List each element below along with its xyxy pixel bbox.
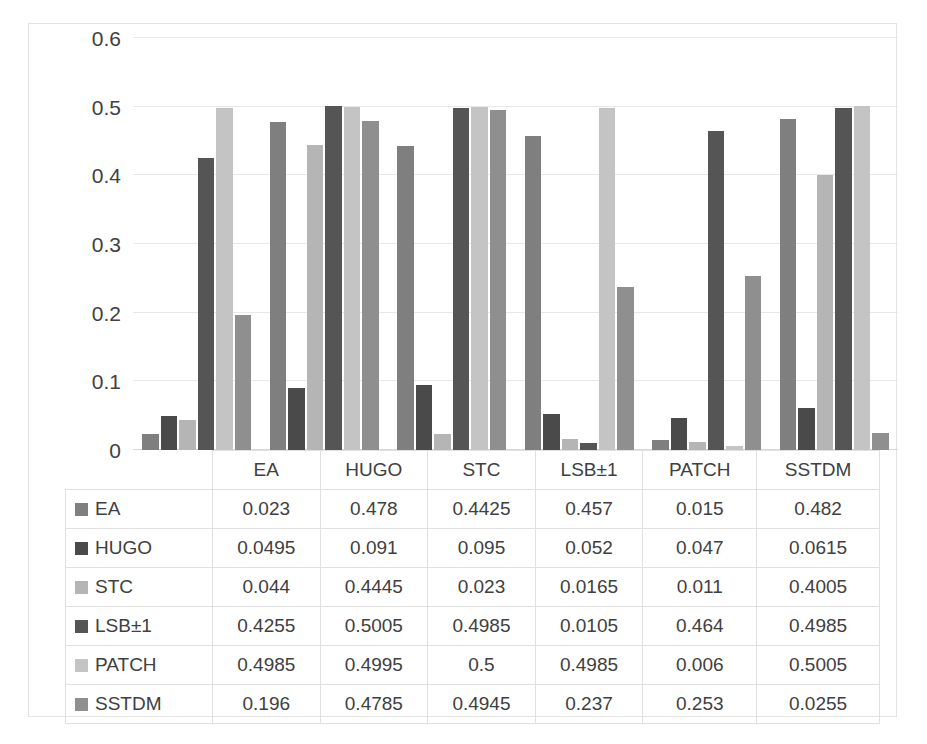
table-cell: 0.044 (213, 568, 321, 607)
table-cell: 0.196 (213, 685, 321, 724)
data-table: EAHUGOSTCLSB±1PATCHSSTDM EA0.0230.4780.4… (65, 450, 880, 724)
legend-swatch-icon (75, 620, 88, 633)
bar (325, 106, 342, 450)
table-column-header: HUGO (320, 451, 428, 490)
legend-swatch-icon (75, 698, 88, 711)
legend-swatch-icon (75, 503, 88, 516)
bar (235, 315, 252, 450)
bar (490, 110, 507, 450)
legend-swatch-icon (75, 542, 88, 555)
y-axis-tick-label: 0.2 (92, 302, 121, 323)
table-cell: 0.478 (320, 490, 428, 529)
table-cell: 0.4985 (535, 646, 643, 685)
table-cell: 0.4005 (757, 568, 880, 607)
table-cell: 0.0165 (535, 568, 643, 607)
y-axis-tick-label: 0.6 (92, 28, 121, 49)
table-cell: 0.482 (757, 490, 880, 529)
y-axis-tick-label: 0.1 (92, 371, 121, 392)
bar (344, 107, 361, 450)
legend-label: PATCH (95, 654, 157, 676)
bar (416, 385, 433, 450)
bar-series-container (133, 24, 898, 450)
bar (689, 442, 706, 450)
legend-entry: HUGO (66, 529, 213, 568)
table-row: STC0.0440.44450.0230.01650.0110.4005 (66, 568, 880, 607)
table-cell: 0.0255 (757, 685, 880, 724)
plot-area: 00.10.20.30.40.50.6 (29, 24, 898, 450)
legend-label: SSTDM (95, 693, 162, 715)
bar (780, 119, 797, 450)
bar (525, 136, 542, 450)
table-cell: 0.4995 (320, 646, 428, 685)
table-cell: 0.4945 (428, 685, 536, 724)
bar (362, 121, 379, 450)
table-row: SSTDM0.1960.47850.49450.2370.2530.0255 (66, 685, 880, 724)
y-axis-tick-label: 0.3 (92, 234, 121, 255)
bar (835, 108, 852, 450)
legend-entry: STC (66, 568, 213, 607)
table-row: EA0.0230.4780.44250.4570.0150.482 (66, 490, 880, 529)
bar (471, 107, 488, 450)
table-column-header: SSTDM (757, 451, 880, 490)
bar (562, 439, 579, 450)
y-axis-tick-label: 0.4 (92, 165, 121, 186)
bar-group (261, 24, 389, 450)
table-cell: 0.5005 (757, 646, 880, 685)
bar-group (516, 24, 644, 450)
bar (453, 108, 470, 450)
bar (270, 122, 287, 450)
table-column-header: PATCH (643, 451, 757, 490)
bar (161, 416, 178, 450)
table-cell: 0.4425 (428, 490, 536, 529)
table-cell: 0.047 (643, 529, 757, 568)
bar (872, 433, 889, 451)
legend-swatch-icon (75, 659, 88, 672)
table-cell: 0.4985 (757, 607, 880, 646)
legend-entry: PATCH (66, 646, 213, 685)
table-cell: 0.011 (643, 568, 757, 607)
bar (543, 414, 560, 450)
table-column-header: EA (213, 451, 321, 490)
table-cell: 0.237 (535, 685, 643, 724)
y-axis-tick-label: 0.5 (92, 96, 121, 117)
plot-canvas (133, 24, 898, 450)
table-cell: 0.095 (428, 529, 536, 568)
table-cell: 0.023 (213, 490, 321, 529)
legend-label: LSB±1 (95, 615, 152, 637)
bar (798, 408, 815, 450)
bar (708, 131, 725, 450)
legend-entry: EA (66, 490, 213, 529)
legend-entry: LSB±1 (66, 607, 213, 646)
chart-figure: 00.10.20.30.40.50.6 EAHUGOSTCLSB±1PATCHS… (28, 23, 897, 717)
table-cell: 0.4255 (213, 607, 321, 646)
bar (580, 443, 597, 450)
table-cell: 0.023 (428, 568, 536, 607)
table-body: EA0.0230.4780.44250.4570.0150.482HUGO0.0… (66, 490, 880, 724)
table-row: PATCH0.49850.49950.50.49850.0060.5005 (66, 646, 880, 685)
bar (216, 108, 233, 450)
bar-group (771, 24, 899, 450)
table-cell: 0.015 (643, 490, 757, 529)
bar (817, 175, 834, 450)
table-column-header: LSB±1 (535, 451, 643, 490)
table-cell: 0.0105 (535, 607, 643, 646)
bar (198, 158, 215, 450)
bar (307, 145, 324, 450)
bar (671, 418, 688, 450)
table-column-header: STC (428, 451, 536, 490)
table-cell: 0.091 (320, 529, 428, 568)
bar (434, 434, 451, 450)
table-cell: 0.5005 (320, 607, 428, 646)
y-axis: 00.10.20.30.40.50.6 (29, 24, 133, 450)
bar (745, 276, 762, 450)
bar (397, 146, 414, 450)
bar (652, 440, 669, 450)
legend-label: EA (95, 498, 120, 520)
table-cell: 0.0495 (213, 529, 321, 568)
legend-label: STC (95, 576, 133, 598)
bar (142, 434, 159, 450)
table-header: EAHUGOSTCLSB±1PATCHSSTDM (66, 451, 880, 490)
table-cell: 0.5 (428, 646, 536, 685)
bar-group (643, 24, 771, 450)
table-row: HUGO0.04950.0910.0950.0520.0470.0615 (66, 529, 880, 568)
